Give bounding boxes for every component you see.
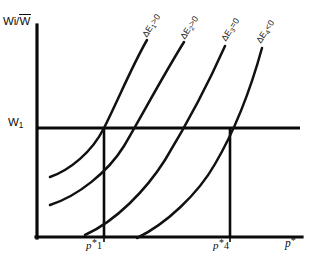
x-tick-label-p4-symbol: p: [213, 239, 219, 251]
w1-label: W1: [8, 117, 23, 129]
x-axis-label-sup: *: [291, 235, 296, 246]
y-axis-label: Wi/W: [3, 14, 31, 28]
x-tick-label-p1-symbol: p: [86, 239, 92, 251]
y-axis-label-overbar: W: [19, 14, 31, 27]
iso-curve-2: [50, 42, 184, 205]
y-axis-label-text: Wi/: [3, 15, 19, 27]
x-tick-label-p4-num: 4: [224, 240, 229, 251]
x-axis-label-symbol: p: [285, 237, 291, 249]
x-tick-label-p1: p*1: [86, 240, 102, 251]
x-tick-label-p1-num: 1: [97, 240, 102, 251]
w1-label-text: W: [8, 116, 19, 128]
iso-curve-1: [50, 40, 147, 177]
iso-curve-3: [85, 46, 225, 235]
x-tick-label-p1-sup: *: [92, 237, 98, 248]
w1-label-subscript: 1: [19, 121, 24, 130]
economics-diagram-figure: Wi/W W1 p*1 p*4 p* ΔE1>0 ΔE2>0 ΔE3=0 ΔE4…: [0, 0, 309, 260]
iso-curve-4: [137, 48, 262, 238]
x-tick-label-p4: p*4: [213, 240, 229, 251]
x-tick-label-p4-sup: *: [219, 237, 225, 248]
x-axis-label: p*: [285, 238, 296, 250]
